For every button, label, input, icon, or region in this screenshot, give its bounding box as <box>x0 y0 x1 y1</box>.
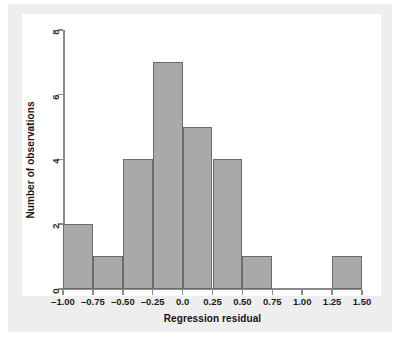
y-axis-title-text: Number of observations <box>25 101 36 218</box>
x-tick-mark <box>331 290 333 295</box>
y-tick-label: 4 <box>50 159 61 179</box>
x-tick-label: 1.50 <box>342 296 382 307</box>
x-tick-mark <box>152 290 154 295</box>
histogram-bar <box>123 159 153 288</box>
y-tick-label: 6 <box>50 94 61 114</box>
x-tick-mark <box>242 290 244 295</box>
histogram-bar <box>242 256 272 288</box>
x-tick-mark <box>212 290 214 295</box>
x-tick-mark <box>301 290 303 295</box>
y-tick-label: 8 <box>50 30 61 50</box>
x-tick-mark <box>182 290 184 295</box>
y-tick-label: 2 <box>50 224 61 244</box>
histogram-bar <box>153 62 183 288</box>
x-tick-mark <box>122 290 124 295</box>
histogram-bar <box>213 159 243 288</box>
y-axis-title: Number of observations <box>22 60 38 260</box>
x-tick-mark <box>272 290 274 295</box>
x-tick-mark <box>92 290 94 295</box>
x-tick-mark <box>361 290 363 295</box>
histogram-bar <box>332 256 362 288</box>
x-tick-mark <box>62 290 64 295</box>
histogram-bar <box>93 256 123 288</box>
histogram-bar <box>63 224 93 289</box>
histogram-bar <box>183 127 213 289</box>
figure-histogram: 02468 –1.00–0.75–0.50–0.250.00.250.500.7… <box>0 0 400 350</box>
x-axis-title: Regression residual <box>63 313 362 324</box>
